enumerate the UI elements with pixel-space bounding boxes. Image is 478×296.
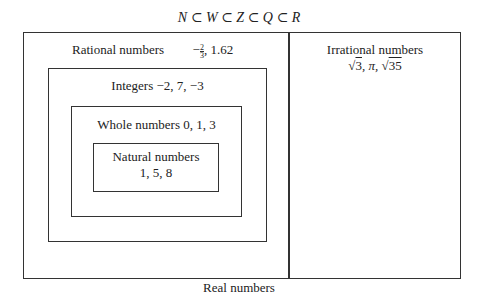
rational-label: Rational numbers −23, 1.62: [72, 42, 233, 59]
integers-label: Integers −2, 7, −3: [48, 78, 267, 94]
natural-label-text: Natural numbers: [93, 149, 219, 165]
rational-minus: −: [193, 42, 200, 57]
subset-chain-title: N ⊂ W ⊂ Z ⊂ Q ⊂ R: [0, 9, 478, 26]
real-numbers-label: Real numbers: [0, 280, 478, 296]
whole-numbers-label: Whole numbers 0, 1, 3: [71, 117, 242, 133]
irrational-label: Irrational numbers √3, π, √35: [289, 42, 461, 74]
rational-examples: , 1.62: [204, 42, 233, 57]
natural-numbers-label: Natural numbers 1, 5, 8: [93, 149, 219, 181]
natural-examples: 1, 5, 8: [93, 165, 219, 181]
rational-label-text: Rational numbers: [72, 42, 164, 57]
irrational-label-text: Irrational numbers: [289, 42, 461, 58]
irrational-examples: √3, π, √35: [289, 58, 461, 74]
